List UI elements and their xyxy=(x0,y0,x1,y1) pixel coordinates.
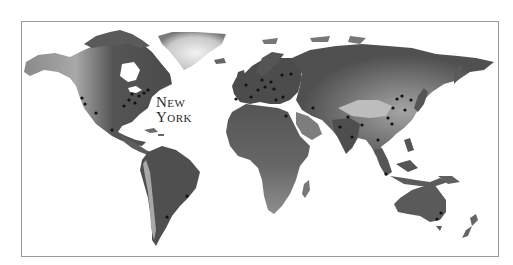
city-dot-north-america-east xyxy=(127,98,130,101)
city-dot-mexico xyxy=(110,128,113,131)
city-dot-north-america-west xyxy=(83,102,86,105)
label-line-1: New xyxy=(156,95,192,110)
city-dot-south-asia xyxy=(338,125,341,128)
city-dot-southeast-asia xyxy=(384,172,387,175)
city-dot-south-america xyxy=(165,215,168,218)
caribbean-islands xyxy=(144,128,164,136)
city-dot-middle-east xyxy=(284,114,287,117)
city-dot-europe xyxy=(256,88,259,91)
city-dot-north-america-east xyxy=(137,94,140,97)
svalbard-novaya-zemlya xyxy=(262,36,366,44)
indian-subcontinent xyxy=(332,118,360,154)
city-dot-south-asia xyxy=(346,115,349,118)
indonesia xyxy=(390,176,448,186)
city-dot-australia xyxy=(435,217,438,220)
city-dot-south-america xyxy=(185,194,188,197)
city-dot-east-asia xyxy=(390,122,393,125)
greenland xyxy=(158,32,226,70)
city-dot-east-asia xyxy=(403,108,406,111)
city-dot-east-asia xyxy=(386,116,389,119)
city-dot-europe xyxy=(260,78,263,81)
city-dot-south-asia xyxy=(350,135,353,138)
city-dot-north-america-west xyxy=(94,111,97,114)
city-dot-east-asia xyxy=(391,106,394,109)
city-dot-europe xyxy=(269,80,272,83)
madagascar xyxy=(302,180,310,198)
city-dot-europe xyxy=(263,85,266,88)
city-dot-europe xyxy=(244,83,247,86)
city-dot-europe xyxy=(272,87,275,90)
city-dot-southeast-asia xyxy=(376,138,379,141)
city-dot-europe xyxy=(289,72,292,75)
tasmania xyxy=(436,226,442,231)
continent-asia xyxy=(292,44,494,156)
city-dot-europe xyxy=(234,97,237,100)
city-dot-south-asia xyxy=(360,123,363,126)
city-dot-australia xyxy=(439,211,442,214)
city-dot-europe xyxy=(281,95,284,98)
arctic-archipelago xyxy=(84,30,150,48)
city-dot-europe xyxy=(249,95,252,98)
city-dot-europe xyxy=(280,73,283,76)
city-dot-north-america-west xyxy=(80,96,83,99)
city-dot-east-asia xyxy=(409,98,412,101)
new-zealand xyxy=(462,214,478,238)
city-dot-north-america-east xyxy=(146,88,149,91)
continent-australia xyxy=(394,184,446,222)
iceland xyxy=(214,58,226,64)
city-dot-north-america-east xyxy=(130,92,133,95)
world-map xyxy=(0,0,513,265)
city-dot-europe xyxy=(274,98,277,101)
city-dot-north-america-east xyxy=(133,101,136,104)
label-line-2: York xyxy=(156,110,192,125)
city-dot-north-america-east xyxy=(142,91,145,94)
new-york-label: New York xyxy=(156,95,192,125)
city-dot-east-asia xyxy=(395,97,398,100)
city-dot-middle-east xyxy=(311,106,314,109)
city-dot-east-asia xyxy=(400,94,403,97)
city-dot-north-america-east xyxy=(122,104,125,107)
